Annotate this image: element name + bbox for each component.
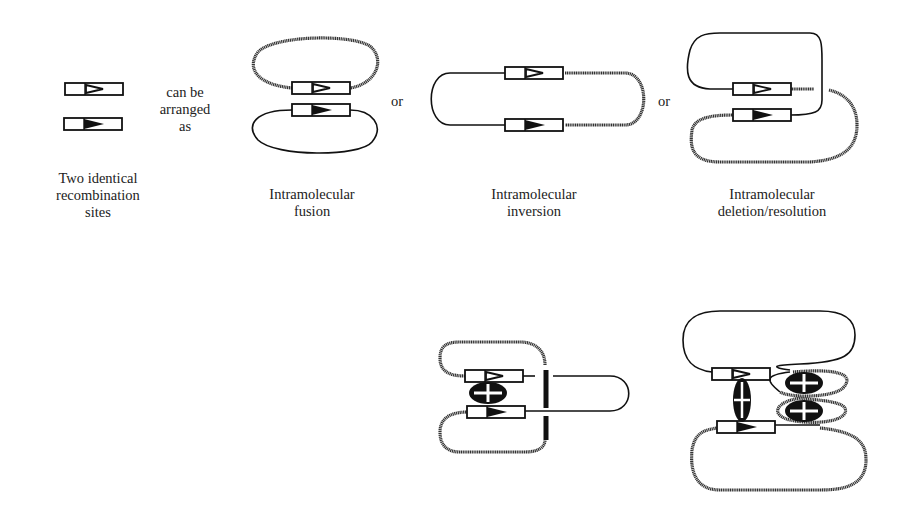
deletion-label: Intramolecular deletion/resolution xyxy=(702,186,842,220)
arranged-label: can be arranged as xyxy=(150,84,220,135)
open-site-icon xyxy=(733,83,791,95)
synaptic-complex-2 xyxy=(683,311,866,490)
or-label-1: or xyxy=(385,93,409,110)
sites-label: Two identical recombination sites xyxy=(38,170,158,221)
filled-site-icon xyxy=(733,109,791,121)
legend-sites xyxy=(64,83,123,130)
fusion-label: Intramolecular fusion xyxy=(252,186,372,220)
recombinase-vertical-oval-icon xyxy=(733,378,751,422)
or-label-2: or xyxy=(652,93,676,110)
recombinase-plus-icon xyxy=(469,382,507,404)
recombination-diagram xyxy=(0,0,910,516)
open-site-icon xyxy=(292,82,350,94)
inversion-diagram xyxy=(431,67,644,131)
filled-site-icon xyxy=(292,104,350,116)
open-site-icon xyxy=(65,83,123,95)
filled-site-icon xyxy=(64,118,122,130)
fusion-diagram xyxy=(253,38,378,153)
filled-site-icon xyxy=(717,421,775,433)
inversion-label: Intramolecular inversion xyxy=(474,186,594,220)
accessory-plus-icon xyxy=(785,400,823,422)
filled-site-icon xyxy=(467,406,525,418)
filled-site-icon xyxy=(505,119,563,131)
deletion-diagram xyxy=(687,33,857,162)
accessory-plus-icon xyxy=(785,372,823,394)
open-site-icon xyxy=(505,67,563,79)
synaptic-complex-1 xyxy=(440,342,629,452)
open-site-icon xyxy=(465,370,523,382)
